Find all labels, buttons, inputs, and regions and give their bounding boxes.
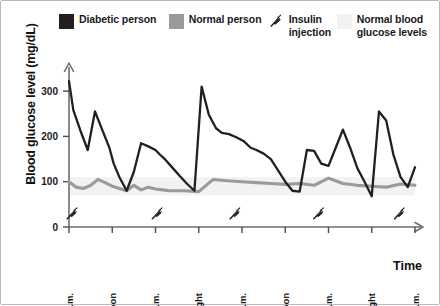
plot-area: 0100200300 6 a.m.12 noon6 p.m.midnight6 … [1, 1, 440, 306]
x-tick-label: 12 noon [107, 293, 118, 306]
y-tick-label: 200 [41, 131, 58, 142]
insulin-injection-markers [67, 208, 404, 219]
x-axis-ticks: 6 a.m.12 noon6 p.m.midnight6 a.m.12 noon… [64, 227, 421, 306]
x-tick-label: 12 noon [280, 293, 291, 306]
x-tick-label: midnight [193, 292, 204, 306]
x-tick-label: 6 p.m. [323, 293, 334, 306]
x-axis-title: Time [393, 259, 422, 273]
syringe-icon [230, 208, 240, 219]
syringe-icon [314, 208, 324, 219]
y-axis-ticks: 0100200300 [41, 86, 69, 233]
y-tick-label: 0 [52, 222, 58, 233]
syringe-icon [152, 208, 162, 219]
chart-canvas: 0100200300 6 a.m.12 noon6 p.m.midnight6 … [1, 1, 440, 306]
y-tick-label: 100 [41, 176, 58, 187]
y-tick-label: 300 [41, 86, 58, 97]
x-tick-label: 6 p.m. [150, 293, 161, 306]
x-tick-label: 6 a.m. [237, 293, 248, 306]
syringe-icon [395, 208, 405, 219]
y-axis-title: Blood glucose level (mg/dL) [24, 14, 38, 194]
x-tick-label: midnight [366, 292, 377, 306]
x-tick-label: 6 a.m. [410, 293, 421, 306]
x-axis [69, 223, 423, 232]
x-tick-label: 6 a.m. [64, 293, 75, 306]
